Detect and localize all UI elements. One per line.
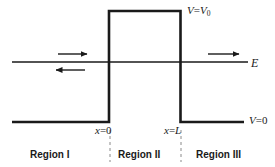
barrier-potential-label: V=V0 bbox=[187, 5, 210, 16]
right-edge-label: x=L bbox=[164, 125, 181, 136]
barrier-path bbox=[12, 11, 244, 122]
region-label-3: Region III bbox=[196, 150, 241, 160]
outside-potential-symbol: V bbox=[249, 114, 256, 126]
barrier-potential-symbol: V bbox=[187, 4, 194, 16]
potential-barrier-outline bbox=[12, 11, 244, 122]
right-edge-value: L bbox=[175, 124, 181, 136]
left-edge-value: 0 bbox=[106, 124, 112, 136]
potential-barrier-figure: V=V0 E V=0 x=0 x=L Region I Region II Re… bbox=[0, 0, 275, 167]
barrier-potential-value: V bbox=[200, 4, 207, 16]
left-edge-label: x=0 bbox=[95, 125, 112, 136]
figure-canvas bbox=[0, 0, 275, 167]
barrier-potential-subscript: 0 bbox=[207, 9, 211, 18]
outside-potential-label: V=0 bbox=[249, 115, 267, 126]
region-label-2: Region II bbox=[118, 150, 160, 160]
outside-potential-value: 0 bbox=[262, 114, 268, 126]
energy-label: E bbox=[251, 57, 258, 69]
region-label-1: Region I bbox=[30, 150, 69, 160]
